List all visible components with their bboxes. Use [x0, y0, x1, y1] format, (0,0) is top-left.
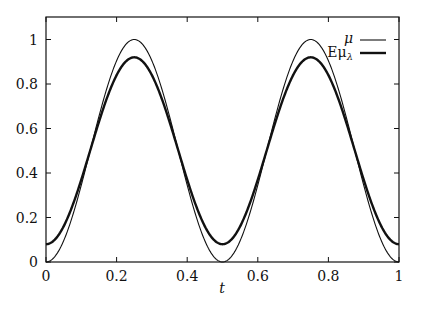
x-tick-label: 0.8	[317, 268, 339, 284]
y-tick-label: 0.6	[16, 121, 38, 137]
legend-item-emu: Eμλ	[327, 44, 386, 62]
series-emu-line	[46, 57, 399, 244]
legend-label-emu-sub: λ	[346, 51, 353, 62]
y-tick-label: 0.4	[16, 165, 38, 181]
x-tick-label: 0.4	[176, 268, 198, 284]
legend-label-emu-main: Eμ	[327, 44, 346, 60]
x-axis-label: t	[219, 280, 225, 296]
y-tick-label: 0.8	[16, 76, 38, 92]
legend: μ Eμλ	[327, 30, 386, 62]
y-tick-label: 0	[29, 254, 38, 270]
y-tick-label: 0.2	[16, 210, 38, 226]
legend-label-emu: Eμλ	[327, 44, 353, 62]
y-tick-labels: 00.20.40.60.81	[16, 32, 38, 271]
y-tick-label: 1	[29, 32, 38, 48]
x-tick-label: 0	[42, 268, 51, 284]
x-tick-label: 0.2	[105, 268, 127, 284]
legend-item-mu: μ	[344, 30, 386, 46]
curves	[46, 40, 399, 263]
x-tick-label: 1	[395, 268, 404, 284]
x-tick-label: 0.6	[247, 268, 269, 284]
chart: 00.20.40.60.81 00.20.40.60.81 t μ Eμλ	[0, 0, 422, 311]
series-mu-line	[46, 40, 399, 263]
